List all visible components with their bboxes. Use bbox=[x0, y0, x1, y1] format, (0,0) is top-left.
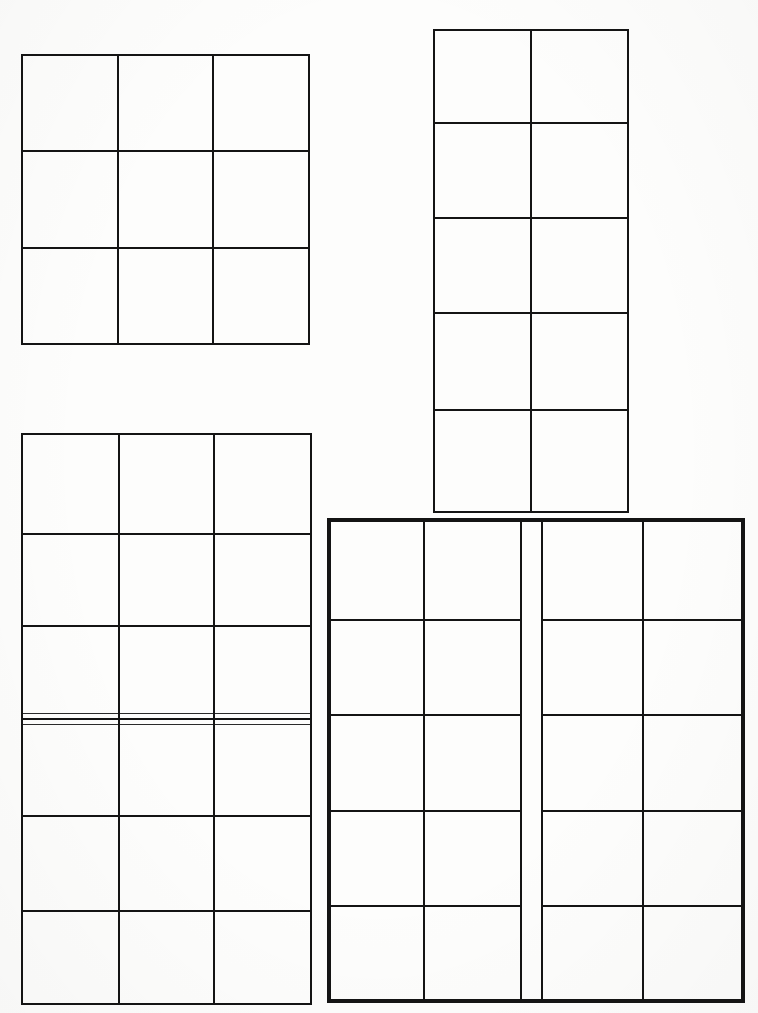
grid-bottom-right[interactable] bbox=[0, 0, 758, 1013]
grid-bottom-right-cell-r1c4[interactable] bbox=[644, 520, 741, 619]
grid-bottom-right-centre-gutter bbox=[522, 520, 541, 1001]
grid-bottom-right-cell-r4c1[interactable] bbox=[329, 812, 423, 905]
grid-bottom-right-cell-r4c3[interactable] bbox=[543, 812, 642, 905]
grid-bottom-right-cell-r3c1[interactable] bbox=[329, 716, 423, 810]
grid-bottom-right-cell-r2c3[interactable] bbox=[543, 621, 642, 714]
grid-bottom-right-cell-r2c4[interactable] bbox=[644, 621, 741, 714]
grid-bottom-right-cell-r3c4[interactable] bbox=[644, 716, 741, 810]
grid-bottom-right-cell-r3c2[interactable] bbox=[425, 716, 520, 810]
grid-bottom-right-cell-r1c3[interactable] bbox=[543, 520, 642, 619]
grid-bottom-right-cell-r2c1[interactable] bbox=[329, 621, 423, 714]
grid-bottom-right-cell-r1c1[interactable] bbox=[329, 520, 423, 619]
grid-bottom-right-cell-r5c1[interactable] bbox=[329, 907, 423, 999]
grid-bottom-right-cell-r5c4[interactable] bbox=[644, 907, 741, 999]
grid-bottom-right-cell-r3c3[interactable] bbox=[543, 716, 642, 810]
grid-bottom-right-cell-r4c4[interactable] bbox=[644, 812, 741, 905]
grid-bottom-right-cell-r5c2[interactable] bbox=[425, 907, 520, 999]
grid-bottom-right-frame-right bbox=[741, 518, 745, 1003]
grid-bottom-right-cell-r2c2[interactable] bbox=[425, 621, 520, 714]
grid-bottom-right-cell-r5c3[interactable] bbox=[543, 907, 642, 999]
worksheet-page bbox=[0, 0, 758, 1013]
grid-bottom-right-cell-r4c2[interactable] bbox=[425, 812, 520, 905]
grid-bottom-right-cell-r1c2[interactable] bbox=[425, 520, 520, 619]
